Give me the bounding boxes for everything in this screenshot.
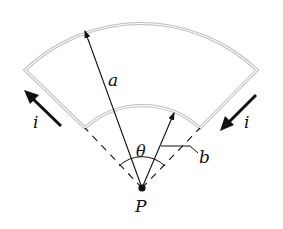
- label-i-right: i: [244, 112, 249, 132]
- radius-a-arrow: [85, 31, 142, 188]
- label-a: a: [108, 70, 118, 90]
- label-i-left: i: [33, 112, 38, 132]
- radius-b-arrow: [142, 113, 174, 188]
- wire-loop: [25, 24, 257, 128]
- diagram-canvas: a θ b P i i: [0, 0, 283, 229]
- label-p: P: [134, 196, 147, 216]
- point-p-dot: [138, 184, 145, 191]
- label-b: b: [199, 147, 210, 167]
- current-arrow-left: [24, 90, 61, 126]
- label-theta: θ: [136, 142, 146, 161]
